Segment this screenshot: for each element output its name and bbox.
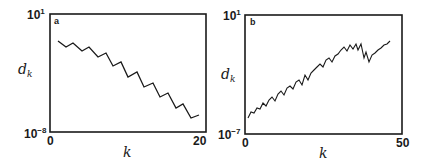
panel-b-ytick-top: 101: [223, 8, 241, 23]
panel-b-xtick-right: 50: [396, 136, 410, 150]
panel-b: b 101 10−7 0 50 dk k: [218, 8, 410, 161]
panel-b-series-line: [248, 41, 390, 118]
panel-a-xtick-left: 0: [47, 134, 54, 148]
panel-b-xtick-left: 0: [242, 136, 249, 150]
panel-b-ytick-bottom: 10−7: [218, 127, 241, 142]
figure: a 101 10−8 0 20 dk k b 101 10−7 0 50 dk …: [0, 0, 426, 163]
panel-b-ylabel: dk: [221, 66, 235, 84]
panel-a-ylabel: dk: [18, 61, 32, 79]
panel-a-xtick-right: 20: [193, 134, 207, 148]
panel-b-label: b: [250, 17, 256, 27]
panel-b-frame: [245, 15, 402, 134]
panel-a-ytick-top: 101: [27, 7, 45, 22]
panel-a: a 101 10−8 0 20 dk k: [18, 7, 207, 160]
panel-a-series-line: [58, 41, 199, 118]
panel-a-label: a: [54, 16, 60, 26]
panel-a-xlabel: k: [123, 144, 131, 160]
panel-a-ytick-bottom: 10−8: [24, 126, 47, 141]
panel-a-frame: [50, 14, 206, 132]
panel-b-xlabel: k: [319, 145, 327, 161]
